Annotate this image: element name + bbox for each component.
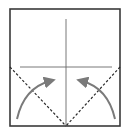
origami-diagram (0, 0, 128, 133)
square-paper (10, 9, 120, 126)
